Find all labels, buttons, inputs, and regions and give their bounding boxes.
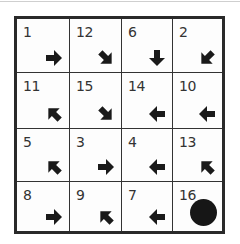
grid-cell[interactable]: 13 — [173, 129, 222, 182]
arrow-w-icon — [198, 105, 216, 123]
cell-number: 8 — [23, 188, 31, 202]
cell-number: 9 — [76, 188, 84, 202]
grid-cell[interactable]: 6 — [122, 19, 173, 73]
arrow-nw-icon — [45, 105, 63, 123]
grid-cell[interactable]: 14 — [122, 73, 173, 129]
grid-cell[interactable]: 7 — [122, 182, 173, 231]
grid-cell[interactable]: 16 — [173, 182, 222, 231]
grid-cell[interactable]: 4 — [122, 129, 173, 182]
arrow-se-icon — [97, 49, 115, 67]
arrow-w-icon — [148, 158, 166, 176]
arrow-nw-icon — [45, 158, 63, 176]
arrow-w-icon — [148, 208, 166, 226]
arrow-e-icon — [97, 158, 115, 176]
grid-cell[interactable]: 12 — [70, 19, 122, 73]
cell-number: 10 — [179, 79, 196, 93]
cell-number: 16 — [179, 188, 196, 202]
cell-number: 2 — [179, 25, 187, 39]
grid-cell[interactable]: 9 — [70, 182, 122, 231]
arrow-e-icon — [45, 49, 63, 67]
grid-cell[interactable]: 10 — [173, 73, 222, 129]
grid-cell[interactable]: 11 — [17, 73, 70, 129]
cell-number: 4 — [128, 135, 136, 149]
goal-dot-icon — [190, 199, 217, 226]
grid-cell[interactable]: 1 — [17, 19, 70, 73]
cell-number: 15 — [76, 79, 93, 93]
arrow-s-icon — [148, 49, 166, 67]
arrow-w-icon — [148, 105, 166, 123]
cell-number: 12 — [76, 25, 93, 39]
arrow-e-icon — [45, 208, 63, 226]
grid-cell[interactable]: 5 — [17, 129, 70, 182]
arrow-nw-icon — [198, 158, 216, 176]
top-divider — [0, 1, 240, 2]
grid-cell[interactable]: 2 — [173, 19, 222, 73]
cell-number: 13 — [179, 135, 196, 149]
arrow-puzzle-grid: 11262111514105341389716 — [14, 16, 225, 234]
grid-cell[interactable]: 3 — [70, 129, 122, 182]
cell-number: 1 — [23, 25, 31, 39]
grid-cell[interactable]: 8 — [17, 182, 70, 231]
cell-number: 6 — [128, 25, 136, 39]
arrow-nw-icon — [97, 208, 115, 226]
arrow-se-icon — [97, 105, 115, 123]
cell-number: 14 — [128, 79, 145, 93]
cell-number: 11 — [23, 79, 40, 93]
grid-cell[interactable]: 15 — [70, 73, 122, 129]
cell-number: 5 — [23, 135, 31, 149]
cell-number: 3 — [76, 135, 84, 149]
cell-number: 7 — [128, 188, 136, 202]
arrow-sw-icon — [198, 49, 216, 67]
